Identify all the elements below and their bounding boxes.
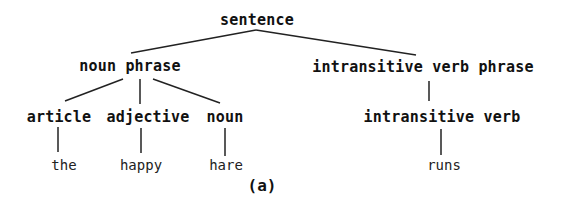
- edge-np-article: [65, 79, 123, 101]
- parse-tree-diagram: sentence noun phrase intransitive verb p…: [0, 0, 568, 202]
- edge-sentence-ivp: [256, 30, 416, 55]
- leaf-hare: hare: [209, 157, 243, 173]
- node-intransitive-verb: intransitive verb: [364, 108, 521, 126]
- node-article: article: [27, 108, 92, 126]
- edge-sentence-noun-phrase: [131, 30, 256, 53]
- tree-edges: [0, 0, 568, 202]
- node-intransitive-verb-phrase: intransitive verb phrase: [312, 58, 534, 76]
- leaf-happy: happy: [120, 157, 162, 173]
- figure-caption: (a): [248, 176, 277, 195]
- node-noun: noun: [207, 108, 244, 126]
- node-adjective: adjective: [106, 108, 189, 126]
- leaf-runs: runs: [427, 157, 461, 173]
- node-sentence: sentence: [220, 11, 294, 29]
- edge-np-noun: [153, 79, 220, 103]
- node-noun-phrase: noun phrase: [79, 57, 181, 75]
- leaf-the: the: [51, 157, 76, 173]
